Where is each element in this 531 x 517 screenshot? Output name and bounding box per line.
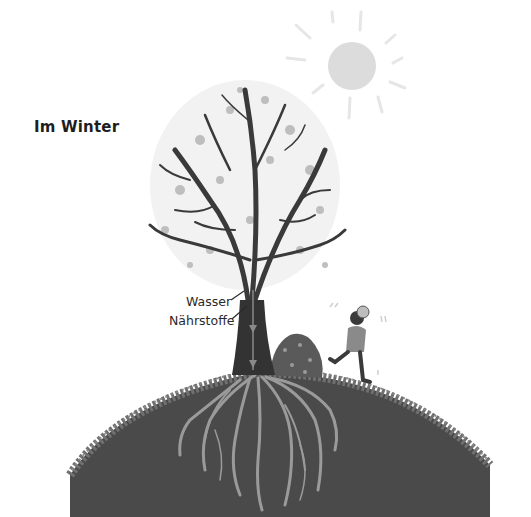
label-nutrients: Nährstoffe (169, 313, 234, 328)
tree-trunk (232, 290, 275, 375)
child-running (330, 303, 386, 382)
leaf-pile (270, 334, 323, 378)
illustration-canvas (0, 0, 531, 517)
sun-icon (287, 12, 405, 118)
winter-tree-illustration: Im Winter Wasser Nährstoffe (0, 0, 531, 517)
label-water: Wasser (186, 294, 231, 309)
page-title: Im Winter (34, 118, 119, 136)
hill (70, 369, 490, 517)
